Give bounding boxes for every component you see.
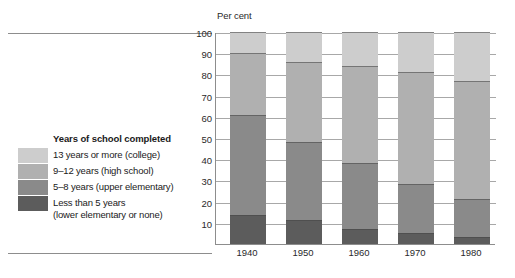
y-axis-tick-label: 20 (201, 197, 212, 208)
bar-segment (398, 72, 434, 183)
bar-1980 (454, 32, 490, 244)
y-axis-tick-label: 100 (196, 28, 212, 39)
bar-segment (230, 32, 266, 53)
legend-item-label: Less than 5 years (lower elementary or n… (53, 196, 163, 220)
legend-swatch-icon (18, 164, 48, 179)
x-axis-tick-label: 1980 (448, 247, 494, 258)
legend-item: Less than 5 years (lower elementary or n… (18, 196, 214, 221)
chart-legend: Years of school completed 13 years or mo… (18, 133, 214, 221)
bar-segment (398, 184, 434, 234)
legend-swatch-icon (18, 180, 48, 195)
legend-item: 9–12 years (high school) (18, 164, 214, 180)
legend-swatch-icon (18, 148, 48, 163)
y-axis-tick-label: 70 (201, 91, 212, 102)
y-axis-tick-label: 10 (201, 218, 212, 229)
bar-segment (286, 142, 322, 219)
legend-title: Years of school completed (53, 133, 214, 144)
y-axis-tick-label: 30 (201, 176, 212, 187)
y-axis-tick-label: 40 (201, 155, 212, 166)
bar-1970 (398, 32, 434, 244)
bar-segment (342, 66, 378, 164)
legend-item-label: 9–12 years (high school) (53, 164, 153, 177)
bar-segment (230, 215, 266, 244)
bar-segment (454, 199, 490, 236)
y-axis-tick-label: 80 (201, 70, 212, 81)
bar-segment (342, 32, 378, 66)
x-axis-tick-label: 1970 (392, 247, 438, 258)
bar-1960 (342, 32, 378, 244)
legend-item: 13 years or more (college) (18, 148, 214, 164)
y-axis-title: Per cent (217, 10, 252, 21)
bar-segment (342, 229, 378, 244)
top-divider-rule (8, 33, 212, 34)
bar-segment (454, 81, 490, 200)
y-axis-tick-label: 60 (201, 112, 212, 123)
y-axis-tick-label: 90 (201, 49, 212, 60)
bar-segment (286, 32, 322, 62)
legend-item: 5–8 years (upper elementary) (18, 180, 214, 196)
bottom-divider-rule (8, 253, 212, 254)
legend-swatch-icon (18, 196, 48, 211)
bar-segment (230, 115, 266, 216)
bar-segment (230, 53, 266, 114)
x-axis-tick-label: 1960 (336, 247, 382, 258)
x-axis-tick-label: 1950 (280, 247, 326, 258)
legend-item-label: 13 years or more (college) (53, 148, 160, 161)
x-axis-tick-label: 1940 (224, 247, 270, 258)
legend-item-label: 5–8 years (upper elementary) (53, 180, 173, 193)
plot-area: 102030405060708090100 (215, 33, 495, 245)
bar-segment (342, 163, 378, 229)
bar-segment (286, 62, 322, 143)
bar-segment (454, 237, 490, 244)
bar-1950 (286, 32, 322, 244)
stacked-bar-chart: 102030405060708090100 194019501960197019… (215, 33, 495, 245)
bar-segment (454, 32, 490, 81)
y-axis-tick-label: 50 (201, 134, 212, 145)
bar-segment (286, 220, 322, 244)
bar-1940 (230, 32, 266, 244)
bar-segment (398, 32, 434, 72)
bar-segment (398, 233, 434, 244)
